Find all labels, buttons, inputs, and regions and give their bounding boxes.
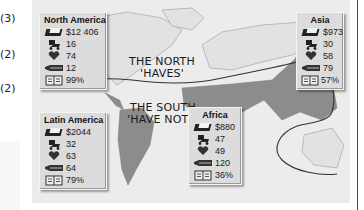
births-value: 16 [66,39,76,49]
income-value: $973 [323,27,343,37]
coffin-icon [301,63,321,74]
births-value: 32 [66,139,76,149]
central-america-land [104,92,124,110]
north-label: THE NORTH 'HAVES' [129,56,195,80]
infant-mortality-value: 79 [323,63,333,73]
book-icon [44,175,64,186]
book-icon [44,75,64,86]
region-box-latin-america: Latin America $2044 32 63 64 79% [39,112,107,190]
coffin-icon [44,63,64,74]
life-expectancy-value: 74 [66,51,76,61]
money-icon [301,27,321,38]
income-value: $2044 [66,127,91,137]
births-value: 47 [215,134,225,144]
literacy-value: 57% [321,75,339,85]
infant-mortality-value: 120 [215,158,230,168]
page-edge-line [357,0,358,210]
region-box-africa: Africa $880 47 49 120 36% [188,107,242,185]
heart-icon [44,51,64,62]
north-label-line2: 'HAVES' [129,68,195,80]
infant-mortality-value: 64 [66,163,76,173]
book-icon [301,75,319,86]
money-icon [193,122,213,133]
coffin-icon [44,163,64,174]
heart-icon [44,151,64,162]
margin-note: (2) [0,82,16,95]
baby-carriage-icon [301,39,321,50]
infant-mortality-value: 12 [66,63,76,73]
income-value: $12 406 [66,27,99,37]
births-value: 30 [323,39,333,49]
life-expectancy-value: 63 [66,151,76,161]
region-title: North America [44,15,102,25]
region-box-asia: Asia $973 30 58 79 57% [296,12,344,90]
money-icon [44,27,64,38]
region-title: Asia [301,15,339,25]
region-title: Africa [193,110,237,120]
baby-carriage-icon [44,139,64,150]
region-box-north-america: North America $12 406 16 74 12 99% [39,12,107,90]
baby-carriage-icon [44,39,64,50]
baby-carriage-icon [193,134,213,145]
page-strip [0,142,20,210]
heart-icon [301,51,321,62]
income-value: $880 [215,122,235,132]
margin-note: (2) [0,48,16,61]
region-title: Latin America [44,115,102,125]
margin-note: (3) [0,12,16,25]
life-expectancy-value: 58 [323,51,333,61]
australia-land [302,128,344,168]
literacy-value: 99% [66,75,84,85]
heart-icon [193,146,213,157]
literacy-value: 36% [215,170,233,180]
coffin-icon [193,158,213,169]
money-icon [44,127,64,138]
literacy-value: 79% [66,175,84,185]
life-expectancy-value: 49 [215,146,225,156]
book-icon [193,170,213,181]
